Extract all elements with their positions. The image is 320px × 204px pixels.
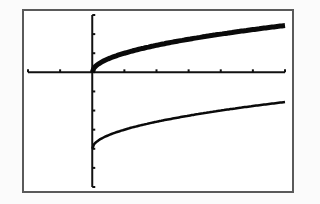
calculator-graph-screen (22, 9, 294, 193)
curve-series-1 (92, 26, 285, 73)
graph-plot (24, 11, 292, 191)
curve-series-2 (92, 102, 285, 149)
